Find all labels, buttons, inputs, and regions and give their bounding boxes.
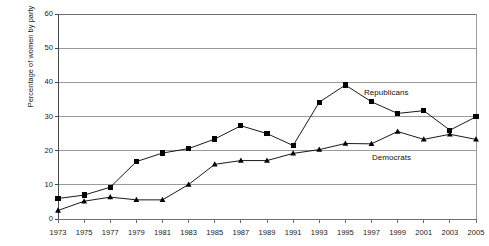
data-point-marker — [160, 150, 165, 155]
data-point-marker — [238, 123, 243, 128]
data-point-marker — [264, 131, 269, 136]
data-point-marker — [238, 157, 244, 162]
data-point-marker — [342, 140, 348, 145]
data-point-marker — [212, 136, 217, 141]
data-point-marker — [395, 111, 400, 116]
data-point-marker — [421, 108, 426, 113]
x-axis-tick-marks — [58, 219, 476, 223]
series-label-republicans: Republicans — [364, 88, 409, 97]
data-point-marker — [107, 194, 113, 199]
grid-lines — [58, 14, 476, 219]
data-point-marker — [395, 128, 401, 133]
data-point-marker — [82, 192, 87, 197]
data-point-marker — [369, 99, 374, 104]
series-label-democrats: Democrats — [372, 153, 411, 162]
data-point-marker — [343, 82, 348, 87]
data-series-layer — [55, 82, 479, 212]
data-point-marker — [108, 185, 113, 190]
data-point-marker — [473, 114, 478, 119]
data-point-marker — [186, 181, 192, 186]
data-point-marker — [186, 146, 191, 151]
data-point-marker — [317, 100, 322, 105]
data-point-marker — [55, 196, 60, 201]
data-point-marker — [134, 159, 139, 164]
data-point-marker — [291, 143, 296, 148]
